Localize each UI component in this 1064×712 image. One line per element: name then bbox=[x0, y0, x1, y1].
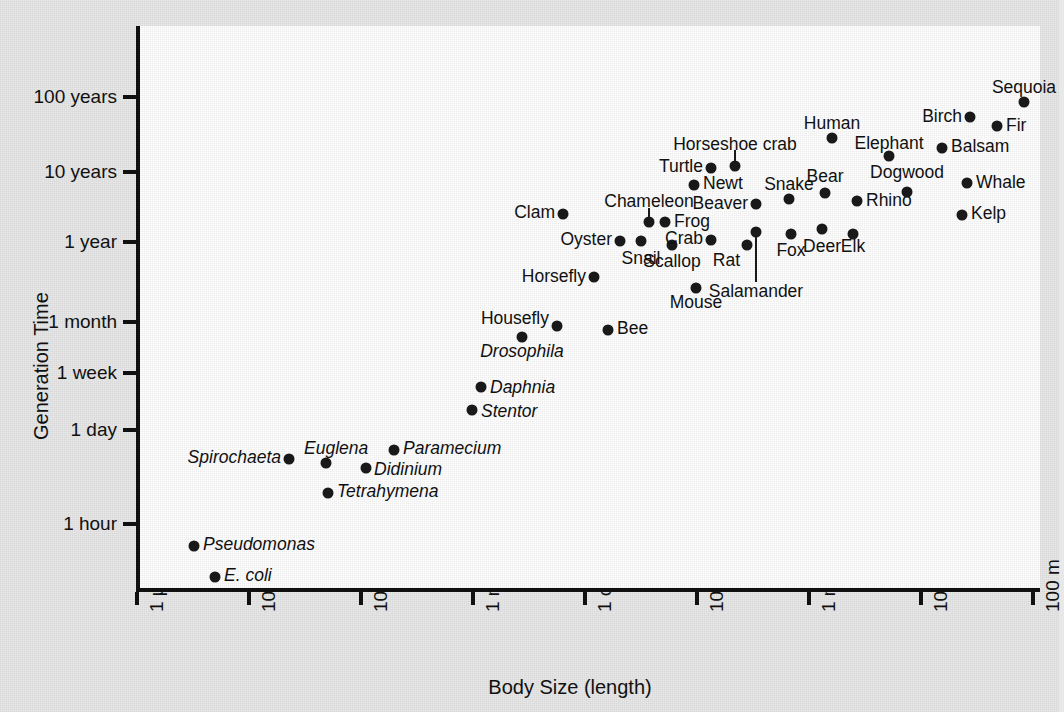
y-tick-label: 1 week bbox=[57, 362, 117, 384]
data-point-label: Horsefly bbox=[522, 268, 586, 286]
data-point bbox=[706, 163, 717, 174]
y-tick-mark bbox=[123, 522, 136, 526]
data-point-label: Birch bbox=[922, 108, 962, 126]
data-point-label: Tetrahymena bbox=[337, 483, 439, 501]
data-point bbox=[467, 405, 478, 416]
y-tick-mark bbox=[123, 170, 136, 174]
data-point-label: Clam bbox=[514, 204, 555, 222]
data-point bbox=[751, 199, 762, 210]
data-point bbox=[361, 463, 372, 474]
data-point-label: Euglena bbox=[304, 440, 368, 458]
data-point-label: Horseshoe crab bbox=[673, 136, 797, 154]
data-point bbox=[786, 229, 797, 240]
x-tick-mark bbox=[359, 592, 363, 605]
data-point-label: Chameleon bbox=[604, 193, 694, 211]
data-point-label: Dogwood bbox=[870, 164, 944, 182]
data-point-label: Elk bbox=[841, 238, 865, 256]
data-point-label: Housefly bbox=[481, 310, 549, 328]
data-point bbox=[820, 188, 831, 199]
plot-area: E. coliPseudomonasTetrahymenaDidiniumSpi… bbox=[136, 26, 1040, 592]
x-tick-mark bbox=[807, 592, 811, 605]
data-point-label: Didinium bbox=[374, 461, 442, 479]
data-point bbox=[660, 217, 671, 228]
x-tick-mark bbox=[135, 592, 139, 605]
data-point bbox=[321, 458, 332, 469]
x-tick-mark bbox=[1031, 592, 1035, 605]
y-tick-label: 1 month bbox=[48, 311, 117, 333]
data-point-label: Beaver bbox=[693, 195, 748, 213]
data-point-label: Human bbox=[804, 115, 860, 133]
data-point-label: Fir bbox=[1006, 117, 1026, 135]
data-point bbox=[751, 227, 762, 238]
data-point bbox=[210, 572, 221, 583]
data-point bbox=[957, 210, 968, 221]
data-point-label: Scallop bbox=[643, 253, 700, 271]
data-point bbox=[827, 133, 838, 144]
data-point bbox=[992, 121, 1003, 132]
data-point bbox=[784, 194, 795, 205]
data-point bbox=[1019, 97, 1030, 108]
y-tick-label: 1 year bbox=[64, 231, 117, 253]
y-tick-mark bbox=[123, 95, 136, 99]
data-point bbox=[615, 236, 626, 247]
x-tick-mark bbox=[471, 592, 475, 605]
data-point bbox=[817, 224, 828, 235]
data-point-label: Rat bbox=[713, 252, 740, 270]
x-tick-mark bbox=[695, 592, 699, 605]
data-point-label: Pseudomonas bbox=[203, 536, 315, 554]
data-point-label: Kelp bbox=[971, 205, 1006, 223]
x-tick-label: 100 m bbox=[1042, 559, 1064, 612]
data-point bbox=[189, 541, 200, 552]
y-tick-mark bbox=[123, 428, 136, 432]
x-tick-mark bbox=[247, 592, 251, 605]
data-point-label: Crab bbox=[665, 230, 703, 248]
data-point-label: Bee bbox=[617, 320, 648, 338]
data-point-label: Sequoia bbox=[992, 79, 1056, 97]
x-tick-mark bbox=[583, 592, 587, 605]
data-point bbox=[552, 321, 563, 332]
data-point bbox=[644, 217, 655, 228]
data-point bbox=[730, 161, 741, 172]
data-point bbox=[706, 235, 717, 246]
data-point-label: Balsam bbox=[951, 138, 1009, 156]
data-point bbox=[323, 488, 334, 499]
data-point bbox=[742, 240, 753, 251]
data-point bbox=[965, 112, 976, 123]
data-point bbox=[389, 445, 400, 456]
data-point bbox=[937, 143, 948, 154]
data-point bbox=[902, 187, 913, 198]
data-point-label: Deer bbox=[803, 238, 841, 256]
data-point-label: Spirochaeta bbox=[188, 449, 281, 467]
data-point bbox=[852, 196, 863, 207]
data-point-label: E. coli bbox=[224, 567, 272, 585]
y-tick-label: 10 years bbox=[44, 161, 117, 183]
data-point-label: Drosophila bbox=[480, 343, 564, 361]
data-point bbox=[962, 178, 973, 189]
data-point bbox=[476, 382, 487, 393]
x-axis-title: Body Size (length) bbox=[488, 676, 651, 699]
data-point-label: Stentor bbox=[481, 403, 537, 421]
data-point-label: Elephant bbox=[854, 135, 923, 153]
label-leader-line bbox=[755, 234, 757, 282]
y-tick-mark bbox=[123, 240, 136, 244]
data-point-label: Daphnia bbox=[490, 379, 555, 397]
y-tick-mark bbox=[123, 320, 136, 324]
y-tick-label: 100 years bbox=[34, 86, 117, 108]
data-point-label: Bear bbox=[807, 168, 844, 186]
y-tick-label: 1 day bbox=[71, 419, 117, 441]
data-point bbox=[558, 209, 569, 220]
data-point-label: Salamander bbox=[709, 283, 803, 301]
data-point bbox=[689, 180, 700, 191]
data-point bbox=[284, 454, 295, 465]
data-point-label: Fox bbox=[776, 242, 805, 260]
data-point-label: Turtle bbox=[659, 158, 703, 176]
y-tick-label: 1 hour bbox=[63, 513, 117, 535]
data-point bbox=[636, 236, 647, 247]
data-point bbox=[589, 272, 600, 283]
x-tick-mark bbox=[919, 592, 923, 605]
data-point-label: Whale bbox=[976, 174, 1026, 192]
data-point-label: Newt bbox=[703, 175, 743, 193]
data-point-label: Oyster bbox=[560, 231, 612, 249]
data-point bbox=[603, 325, 614, 336]
